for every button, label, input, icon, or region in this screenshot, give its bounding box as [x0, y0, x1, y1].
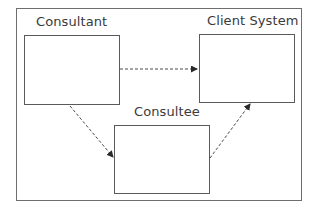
consultant-box: [24, 35, 120, 105]
client-system-box: [199, 34, 295, 103]
consultant-label: Consultant: [36, 14, 107, 29]
consultee-label: Consultee: [134, 104, 200, 119]
client-system-label: Client System: [207, 13, 299, 28]
consultee-box: [114, 125, 210, 194]
